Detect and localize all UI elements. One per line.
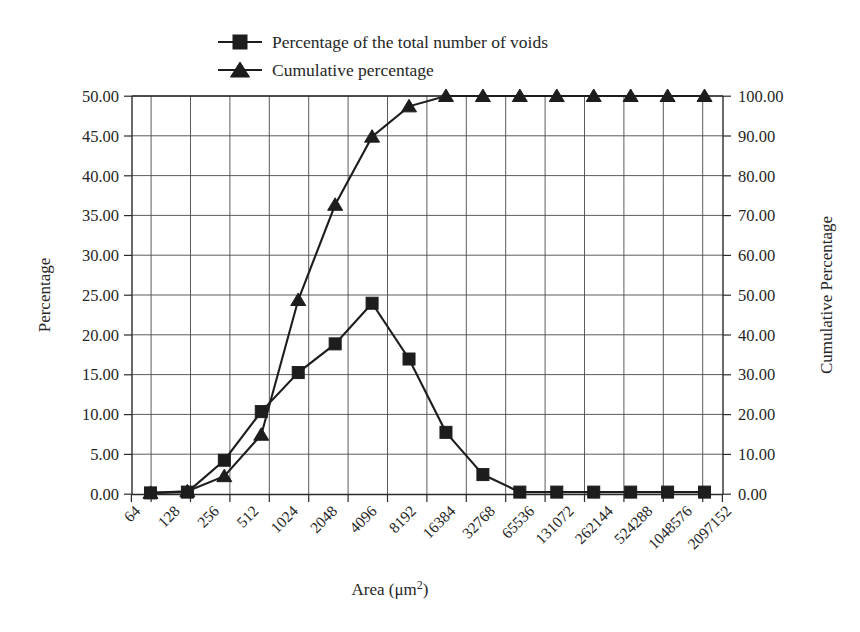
x-tick-label-8192: 8192 bbox=[385, 502, 419, 536]
square-marker-icon bbox=[233, 35, 247, 49]
right-tick-label-6: 60.00 bbox=[738, 246, 775, 265]
x-tick-label-2048: 2048 bbox=[306, 502, 340, 536]
cumulative-percentage-markers bbox=[143, 89, 712, 498]
legend-entry-cumulative: Cumulative percentage bbox=[218, 60, 434, 80]
left-tick-label-6: 30.00 bbox=[82, 246, 119, 265]
x-tick-label-2097152: 2097152 bbox=[684, 502, 734, 552]
bottom-axis: 64 128 256 512 1024 2048 4096 8192 16384… bbox=[120, 495, 734, 600]
series-cumulative-percentage bbox=[143, 89, 712, 498]
data-point-marker bbox=[588, 486, 600, 498]
x-tick-label-262144: 262144 bbox=[571, 502, 616, 547]
right-tick-label-9: 90.00 bbox=[738, 127, 775, 146]
x-tick-label-16384: 16384 bbox=[419, 502, 459, 542]
data-point-marker bbox=[366, 297, 378, 309]
data-point-marker bbox=[625, 486, 637, 498]
right-axis-title: Cumulative Percentage bbox=[817, 216, 836, 374]
data-point-marker bbox=[292, 367, 304, 379]
left-axis-title: Percentage bbox=[35, 258, 54, 333]
data-point-marker bbox=[403, 353, 415, 365]
right-tick-label-2: 20.00 bbox=[738, 405, 775, 424]
left-tick-label-4: 20.00 bbox=[82, 326, 119, 345]
left-tick-label-1: 5.00 bbox=[90, 445, 119, 464]
left-tick-label-5: 25.00 bbox=[82, 286, 119, 305]
right-axis: 0.00 10.00 20.00 30.00 40.00 50.00 60.00… bbox=[723, 87, 836, 504]
x-tick-label-64: 64 bbox=[120, 502, 143, 525]
chart-legend: Percentage of the total number of voids … bbox=[218, 32, 548, 80]
data-point-marker bbox=[514, 486, 526, 498]
x-tick-label-512: 512 bbox=[233, 502, 261, 530]
voids-area-distribution-chart: Percentage of the total number of voids … bbox=[0, 0, 860, 632]
data-point-marker bbox=[254, 428, 269, 441]
x-tick-label-4096: 4096 bbox=[346, 502, 380, 536]
legend-label-cumulative: Cumulative percentage bbox=[272, 60, 434, 80]
x-tick-label-32768: 32768 bbox=[459, 502, 499, 542]
data-point-marker bbox=[551, 486, 563, 498]
data-point-marker bbox=[255, 406, 267, 418]
left-tick-label-8: 40.00 bbox=[82, 167, 119, 186]
data-point-marker bbox=[218, 454, 230, 466]
x-axis-title-main: Area (μm bbox=[352, 580, 417, 599]
x-tick-label-256: 256 bbox=[194, 502, 223, 531]
cumulative-percentage-line bbox=[150, 96, 704, 493]
x-tick-label-1024: 1024 bbox=[267, 502, 301, 536]
left-axis-ticks bbox=[124, 96, 132, 494]
left-tick-label-7: 35.00 bbox=[82, 206, 119, 225]
right-tick-label-8: 80.00 bbox=[738, 167, 775, 186]
legend-entry-percentage: Percentage of the total number of voids bbox=[218, 32, 548, 52]
left-tick-label-2: 10.00 bbox=[82, 405, 119, 424]
series-percentage-of-voids bbox=[144, 297, 710, 499]
right-tick-label-1: 10.00 bbox=[738, 445, 775, 464]
x-axis-title-close: ) bbox=[423, 580, 429, 599]
right-tick-label-10: 100.00 bbox=[738, 87, 783, 106]
right-tick-label-3: 30.00 bbox=[738, 365, 775, 384]
data-point-marker bbox=[144, 487, 156, 499]
data-point-marker bbox=[329, 338, 341, 350]
left-tick-label-9: 45.00 bbox=[82, 127, 119, 146]
left-tick-label-10: 50.00 bbox=[82, 87, 119, 106]
data-point-marker bbox=[477, 469, 489, 481]
legend-label-percentage: Percentage of the total number of voids bbox=[272, 32, 548, 52]
percentage-of-voids-markers bbox=[144, 297, 710, 499]
x-tick-label-128: 128 bbox=[154, 502, 183, 531]
right-tick-label-0: 0.00 bbox=[738, 485, 767, 504]
right-tick-label-7: 70.00 bbox=[738, 206, 775, 225]
right-tick-label-5: 50.00 bbox=[738, 286, 775, 305]
left-axis: 0.00 5.00 10.00 15.00 20.00 25.00 30.00 … bbox=[35, 87, 132, 504]
data-point-marker bbox=[699, 486, 711, 498]
data-point-marker bbox=[440, 426, 452, 438]
x-axis-title: Area (μm2) bbox=[352, 578, 429, 599]
data-point-marker bbox=[181, 486, 193, 498]
right-tick-label-4: 40.00 bbox=[738, 326, 775, 345]
svg-text:Area (μm2): Area (μm2) bbox=[352, 578, 429, 599]
right-axis-ticks bbox=[723, 96, 731, 494]
data-point-marker bbox=[328, 198, 343, 211]
left-tick-label-3: 15.00 bbox=[82, 365, 119, 384]
x-tick-label-131072: 131072 bbox=[532, 502, 577, 547]
left-tick-label-0: 0.00 bbox=[90, 485, 119, 504]
data-point-marker bbox=[662, 486, 674, 498]
chart-figure: Percentage of the total number of voids … bbox=[0, 0, 860, 632]
horizontal-gridlines bbox=[132, 96, 723, 454]
bottom-axis-labels: 64 128 256 512 1024 2048 4096 8192 16384… bbox=[120, 502, 734, 553]
